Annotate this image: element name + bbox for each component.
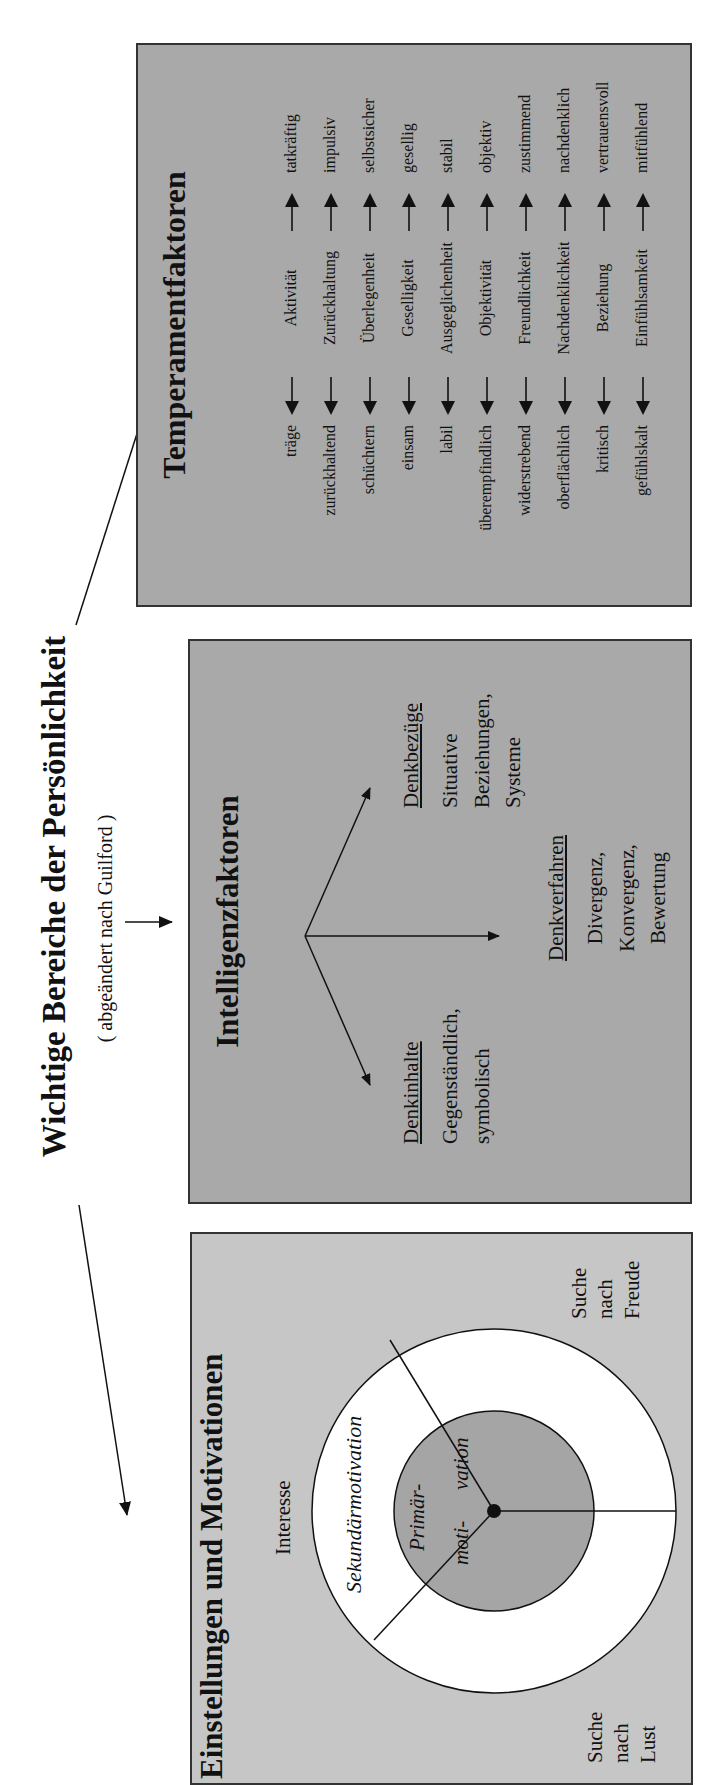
arrow-left-icon (479, 375, 495, 415)
temperament-factor: Objektivität (477, 260, 495, 336)
temperament-row: schüchternÜberlegenheitselbstsicher (360, 45, 390, 605)
arrow-left-icon (401, 375, 417, 415)
temperament-row: zurückhaltendZurückhaltungimpulsiv (321, 45, 351, 605)
arrow-right-icon (284, 193, 300, 233)
temperament-low-pole: gefühlskalt (633, 425, 651, 496)
temperament-factor: Aktivität (282, 270, 300, 327)
temperament-high-pole: tatkräftig (282, 114, 300, 173)
subtitle: ( abgeändert nach Guilford ) (94, 807, 117, 1050)
temperament-high-pole: objektiv (477, 121, 495, 173)
main-title: Wichtige Bereiche der Persönlichkeit (36, 590, 73, 1203)
temperament-high-pole: nachdenklich (555, 88, 573, 173)
temperament-low-pole: schüchtern (360, 425, 378, 494)
arrow-right-icon (635, 193, 651, 233)
arrow-right-icon (401, 193, 417, 233)
arrow-right-icon (479, 193, 495, 233)
temperament-factor: Freundlichkeit (516, 251, 534, 344)
temperament-high-pole: selbstsicher (360, 98, 378, 173)
label-primaer-1: Primär- (406, 1484, 429, 1551)
arrow-to-motivation-icon (79, 1205, 127, 1515)
denkinhalte-heading: Denkinhalte (400, 1008, 423, 1144)
temperament-high-pole: stabil (438, 138, 456, 173)
temperament-row: kritischBeziehungvertrauensvoll (594, 45, 624, 605)
temperament-low-pole: oberflächlich (555, 425, 573, 509)
label-sekundaermotivation: Sekundärmotivation (342, 1416, 366, 1593)
temperament-row: einsamGeselligkeitgesellig (399, 45, 429, 605)
denkbezuege-heading: Denkbezüge (400, 693, 423, 808)
temperament-low-pole: träge (282, 425, 300, 457)
temperament-row: gefühlskaltEinfühlsamkeitmitfühlend (633, 45, 663, 605)
center-dot-icon (487, 1504, 501, 1518)
temperament-row: überempfindlichObjektivitätobjektiv (477, 45, 507, 605)
temperament-factor: Beziehung (594, 264, 612, 332)
temperament-row: widerstrebendFreundlichkeitzustimmend (516, 45, 546, 605)
temperament-low-pole: überempfindlich (477, 425, 495, 531)
temperament-panel: Temperamentfaktoren trägeAktivitättatkrä… (136, 43, 692, 607)
temperament-low-pole: kritisch (594, 425, 612, 473)
temperament-high-pole: impulsiv (321, 117, 339, 173)
temperament-factor: Zurückhaltung (321, 251, 339, 345)
denkinhalte-group: Denkinhalte Gegenständlich, symbolisch (400, 1008, 498, 1144)
arrow-right-icon (440, 193, 456, 233)
arrow-left-icon (596, 375, 612, 415)
temperament-high-pole: mitfühlend (633, 103, 651, 173)
arrow-left-icon (284, 375, 300, 415)
arrow-right-icon (557, 193, 573, 233)
label-suche-nach-lust: Suche nach Lust (582, 1712, 661, 1763)
temperament-low-pole: zurückhaltend (321, 425, 339, 516)
temperament-factor: Einfühlsamkeit (633, 249, 651, 347)
temperament-high-pole: vertrauensvoll (594, 81, 612, 173)
arrow-right-icon (323, 193, 339, 233)
arrow-left-icon (518, 375, 534, 415)
temperament-row: trägeAktivitättatkräftig (282, 45, 312, 605)
intelligence-panel: Intelligenzfaktoren Denkinhalte Gegenstä… (188, 639, 692, 1204)
arrow-right-icon (362, 193, 378, 233)
temperament-high-pole: zustimmend (516, 95, 534, 173)
arrow-left-icon (440, 375, 456, 415)
label-interesse: Interesse (272, 1480, 295, 1555)
arrow-left-icon (362, 375, 378, 415)
temperament-high-pole: gesellig (399, 123, 417, 173)
temperament-panel-title: Temperamentfaktoren (156, 45, 193, 605)
temperament-factor: Ausgeglichenheit (438, 242, 456, 354)
label-suche-nach-freude: Suche nach Freude (566, 1261, 645, 1319)
arrow-left-icon (323, 375, 339, 415)
temperament-low-pole: widerstrebend (516, 425, 534, 516)
temperament-factor: Überlegenheit (360, 253, 378, 344)
temperament-factor: Nachdenklichkeit (555, 242, 573, 355)
denkverfahren-group: Denkverfahren Divergenz, Konvergenz, Bew… (545, 820, 675, 976)
denkbezuege-group: Denkbezüge Situative Beziehungen, System… (400, 693, 530, 808)
temperament-low-pole: einsam (399, 425, 417, 470)
arrow-left-icon (557, 375, 573, 415)
arrow-right-icon (596, 193, 612, 233)
temperament-table: trägeAktivitättatkräftigzurückhaltendZur… (282, 45, 682, 605)
label-primaer-2: moti- (450, 1521, 473, 1565)
label-primaer-3: vation (450, 1438, 473, 1491)
arrow-right-icon (518, 193, 534, 233)
temperament-factor: Geselligkeit (399, 259, 417, 336)
arrow-left-icon (635, 375, 651, 415)
temperament-row: labilAusgeglichenheitstabil (438, 45, 468, 605)
temperament-row: oberflächlichNachdenklichkeitnachdenklic… (555, 45, 585, 605)
motivation-panel: Einstellungen und Motivationen Interesse… (190, 1232, 693, 1785)
temperament-low-pole: labil (438, 425, 456, 453)
denkverfahren-heading: Denkverfahren (545, 820, 568, 976)
